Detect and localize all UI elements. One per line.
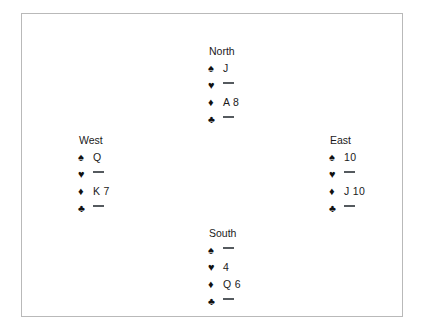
hand-north-clubs-cards <box>221 111 234 128</box>
hand-west-clubs-row: ♣ <box>78 200 110 217</box>
hand-south: South ♠ ♥ 4 ♦ Q 6 ♣ <box>208 227 241 310</box>
hand-south-label: South <box>209 227 241 240</box>
hand-west-diamonds-cards: K 7 <box>91 183 110 200</box>
club-suit-icon: ♣ <box>78 200 91 217</box>
hand-east-hearts-cards <box>342 166 355 183</box>
diamond-suit-icon: ♦ <box>329 183 342 200</box>
hand-east-clubs-cards <box>342 200 355 217</box>
hand-south-hearts-cards: 4 <box>221 259 229 276</box>
heart-suit-icon: ♥ <box>208 259 221 276</box>
diagram-border-frame: North ♠ J ♥ ♦ A 8 ♣ West ♠ Q <box>21 13 403 317</box>
void-dash <box>223 82 234 84</box>
heart-suit-icon: ♥ <box>78 166 91 183</box>
hand-west-label: West <box>79 134 110 147</box>
void-dash <box>93 205 104 207</box>
hand-west: West ♠ Q ♥ ♦ K 7 ♣ <box>78 134 110 217</box>
hand-west-spades-row: ♠ Q <box>78 149 110 166</box>
void-dash <box>344 205 355 207</box>
club-suit-icon: ♣ <box>208 111 221 128</box>
void-dash <box>223 116 234 118</box>
hand-north-diamonds-cards: A 8 <box>221 94 239 111</box>
hand-west-clubs-cards <box>91 200 104 217</box>
hand-south-spades-cards <box>221 242 234 259</box>
void-dash <box>344 171 355 173</box>
hand-west-hearts-row: ♥ <box>78 166 110 183</box>
hand-north-spades-row: ♠ J <box>208 60 239 77</box>
heart-suit-icon: ♥ <box>329 166 342 183</box>
hand-west-hearts-cards <box>91 166 104 183</box>
hand-north-label: North <box>209 45 239 58</box>
hand-south-diamonds-cards: Q 6 <box>221 276 241 293</box>
club-suit-icon: ♣ <box>208 293 221 310</box>
void-dash <box>223 247 234 249</box>
hand-east-diamonds-row: ♦ J 10 <box>329 183 365 200</box>
hand-south-spades-row: ♠ <box>208 242 241 259</box>
spade-suit-icon: ♠ <box>208 60 221 77</box>
spade-suit-icon: ♠ <box>208 242 221 259</box>
hand-west-diamonds-row: ♦ K 7 <box>78 183 110 200</box>
hand-north-hearts-cards <box>221 77 234 94</box>
hand-south-clubs-row: ♣ <box>208 293 241 310</box>
void-dash <box>93 171 104 173</box>
hand-east-diamonds-cards: J 10 <box>342 183 365 200</box>
hand-east-hearts-row: ♥ <box>329 166 365 183</box>
diamond-suit-icon: ♦ <box>78 183 91 200</box>
spade-suit-icon: ♠ <box>78 149 91 166</box>
hand-east-spades-row: ♠ 10 <box>329 149 365 166</box>
hand-north-spades-cards: J <box>221 60 229 77</box>
hand-west-spades-cards: Q <box>91 149 101 166</box>
heart-suit-icon: ♥ <box>208 77 221 94</box>
hand-east-clubs-row: ♣ <box>329 200 365 217</box>
hand-south-diamonds-row: ♦ Q 6 <box>208 276 241 293</box>
bridge-deal-diagram: North ♠ J ♥ ♦ A 8 ♣ West ♠ Q <box>0 0 424 335</box>
hand-north-diamonds-row: ♦ A 8 <box>208 94 239 111</box>
void-dash <box>223 298 234 300</box>
hand-east-label: East <box>330 134 365 147</box>
hand-north: North ♠ J ♥ ♦ A 8 ♣ <box>208 45 239 128</box>
diamond-suit-icon: ♦ <box>208 276 221 293</box>
hand-north-clubs-row: ♣ <box>208 111 239 128</box>
diamond-suit-icon: ♦ <box>208 94 221 111</box>
hand-south-clubs-cards <box>221 293 234 310</box>
hand-east: East ♠ 10 ♥ ♦ J 10 ♣ <box>329 134 365 217</box>
club-suit-icon: ♣ <box>329 200 342 217</box>
hand-north-hearts-row: ♥ <box>208 77 239 94</box>
spade-suit-icon: ♠ <box>329 149 342 166</box>
hand-east-spades-cards: 10 <box>342 149 356 166</box>
hand-south-hearts-row: ♥ 4 <box>208 259 241 276</box>
